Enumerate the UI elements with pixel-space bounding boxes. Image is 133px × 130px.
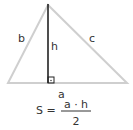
label-b: b bbox=[18, 32, 25, 45]
formula-lhs: S = bbox=[36, 104, 56, 117]
triangle bbox=[8, 5, 127, 83]
formula-denominator: 2 bbox=[73, 115, 80, 128]
label-h: h bbox=[51, 40, 58, 53]
triangle-diagram: b h c a S = a · h 2 bbox=[0, 0, 133, 130]
formula-numerator: a · h bbox=[64, 98, 88, 111]
right-angle-dot bbox=[50, 80, 51, 81]
label-c: c bbox=[89, 32, 95, 45]
